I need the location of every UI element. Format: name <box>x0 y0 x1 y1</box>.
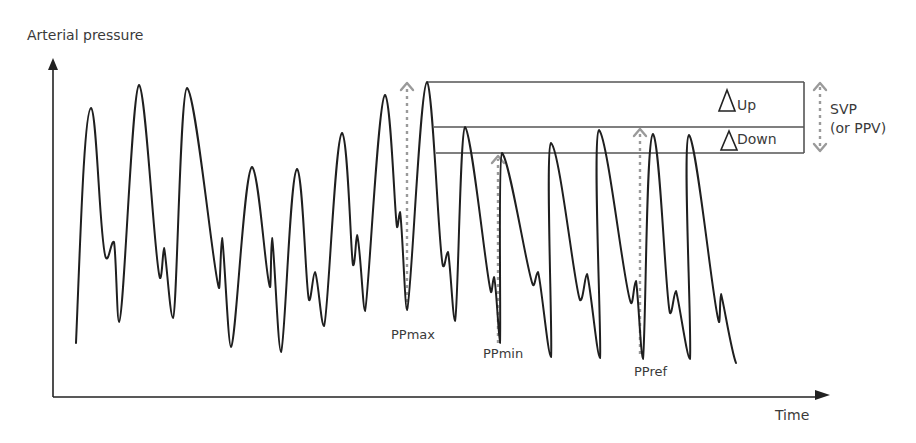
dashed-arrowheads <box>401 83 826 163</box>
pressure-diagram: Arterial pressure Time PPmax PPmin PPref… <box>0 0 916 443</box>
ppmax-arrowhead-icon <box>401 83 413 90</box>
delta-down-label: Down <box>737 131 777 147</box>
svp-label: SVP (or PPV) <box>830 100 886 138</box>
svp-label-line1: SVP <box>830 100 886 119</box>
svp-label-line2: (or PPV) <box>830 119 886 138</box>
y-axis-label: Arterial pressure <box>27 27 143 43</box>
ppref-label: PPref <box>634 364 667 379</box>
x-axis-label: Time <box>775 407 809 423</box>
y-axis-arrow-icon <box>48 58 58 70</box>
delta-down-icon <box>721 131 737 150</box>
ppmax-label: PPmax <box>391 327 435 342</box>
delta-up-icon <box>719 90 735 111</box>
x-axis-arrow-icon <box>815 390 830 400</box>
diagram-svg <box>0 0 916 443</box>
ppmin-label: PPmin <box>483 346 523 361</box>
delta-up-label: Up <box>737 97 756 113</box>
